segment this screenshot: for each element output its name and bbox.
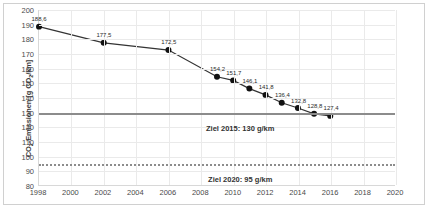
x-axis-tick-label: 2014 [289,188,306,197]
gridline-vertical [331,10,332,185]
x-axis-tick-label: 2018 [354,188,371,197]
y-axis-tick-label: 90 [26,167,34,176]
x-axis-tick-labels: 1998200020022004200620082010201220142016… [38,188,395,202]
gridline-horizontal [39,171,395,172]
gridline-vertical [136,10,137,185]
data-point-label: 136,4 [275,92,290,98]
x-axis-tick-label: 2012 [257,188,274,197]
y-axis-tick-label: 150 [21,79,34,88]
gridline-vertical [71,10,72,185]
data-point-marker [246,86,252,92]
data-point-label: 172,5 [161,39,176,45]
x-axis-tick-label: 2010 [224,188,241,197]
x-axis-tick-label: 1998 [30,188,47,197]
gridline-horizontal [39,83,395,84]
gridline-vertical [266,10,267,185]
data-point-marker [279,100,285,106]
y-axis-tick-label: 200 [21,6,34,15]
data-point-label: 146,1 [242,78,257,84]
y-axis-tick-label: 140 [21,94,34,103]
gridline-vertical [201,10,202,185]
target-line-ziel-2015 [39,113,395,115]
y-axis-tick-label: 110 [22,138,34,147]
data-point-marker [214,74,220,80]
y-axis-tick-label: 130 [21,108,34,117]
data-point-label: 188,6 [31,16,46,22]
gridline-vertical [169,10,170,185]
data-point-label: 154,2 [210,66,225,72]
gridline-horizontal [39,39,395,40]
x-axis-tick-label: 2004 [127,188,144,197]
gridline-horizontal [39,142,395,143]
gridline-vertical [364,10,365,185]
y-axis-tick-label: 120 [21,123,34,132]
data-point-label: 128,8 [307,103,322,109]
gridline-vertical [396,10,397,185]
y-axis-tick-label: 100 [21,152,34,161]
target-label-ziel-2015: Ziel 2015: 130 g/km [206,124,274,133]
gridline-horizontal [39,10,395,11]
gridline-horizontal [39,98,395,99]
x-axis-tick-label: 2008 [192,188,209,197]
gridline-horizontal [39,25,395,26]
y-axis-tick-label: 180 [21,35,34,44]
gridline-horizontal [39,157,395,158]
x-axis-tick-label: 2016 [322,188,339,197]
gridline-horizontal [39,54,395,55]
x-axis-tick-label: 2002 [95,188,112,197]
x-axis-tick-label: 2006 [159,188,176,197]
x-axis-tick-label: 2000 [62,188,79,197]
data-point-label: 127,4 [324,105,339,111]
y-axis-tick-label: 170 [21,50,34,59]
data-point-label: 132,8 [291,98,306,104]
plot-area: Ziel 2015: 130 g/kmZiel 2020: 95 g/km188… [38,10,395,186]
y-axis-tick-label: 160 [21,64,34,73]
gridline-vertical [234,10,235,185]
data-point-label: 177,5 [96,32,111,38]
x-axis-tick-label: 2020 [387,188,404,197]
data-point-label: 141,8 [259,84,274,90]
target-label-ziel-2020: Ziel 2020: 95 g/km [208,175,272,184]
co2-emissions-line-chart: CO2-Emissionen [g CO2/km] 80901001101201… [0,0,428,208]
y-axis-tick-labels: 8090100110120130140150160170180190200 [8,10,34,186]
target-line-ziel-2020 [39,164,395,166]
data-point-label: 151,7 [226,70,241,76]
